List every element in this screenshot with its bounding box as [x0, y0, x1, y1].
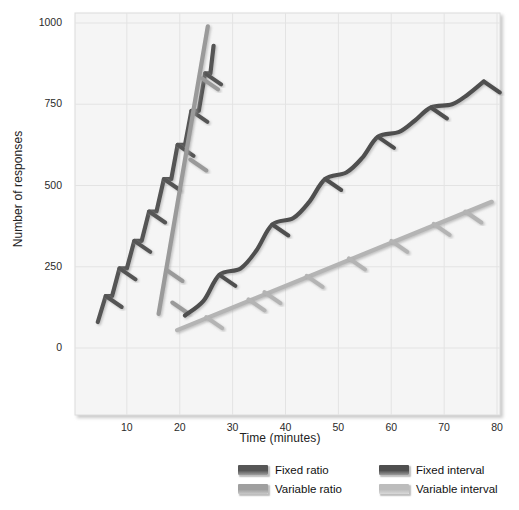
x-axis-title: Time (minutes) — [170, 431, 390, 445]
x-tick-label: 70 — [429, 421, 459, 433]
x-tick-label: 40 — [271, 421, 301, 433]
legend-swatch — [238, 465, 268, 475]
chart-container: Number of responses Time (minutes) 10007… — [0, 0, 519, 510]
x-tick-label: 80 — [482, 421, 512, 433]
legend-label: Variable ratio — [275, 483, 342, 495]
x-tick-label: 20 — [165, 421, 195, 433]
chart-legend: Fixed ratioFixed intervalVariable ratioV… — [238, 460, 510, 498]
y-tick-label: 250 — [20, 260, 62, 272]
legend-label: Variable interval — [416, 483, 498, 495]
y-tick-label: 0 — [20, 341, 62, 353]
legend-swatch — [238, 484, 268, 494]
plot-background — [75, 13, 500, 415]
legend-label: Fixed interval — [416, 464, 484, 476]
legend-swatch — [379, 465, 409, 475]
legend-item[interactable]: Variable interval — [379, 479, 510, 498]
x-tick-label: 30 — [218, 421, 248, 433]
y-tick-label: 750 — [20, 97, 62, 109]
y-tick-label: 500 — [20, 179, 62, 191]
legend-item[interactable]: Variable ratio — [238, 479, 369, 498]
x-tick-label: 50 — [323, 421, 353, 433]
legend-item[interactable]: Fixed ratio — [238, 460, 369, 479]
y-tick-label: 1000 — [20, 16, 62, 28]
x-tick-label: 60 — [376, 421, 406, 433]
legend-item[interactable]: Fixed interval — [379, 460, 510, 479]
legend-label: Fixed ratio — [275, 464, 329, 476]
x-tick-label: 10 — [112, 421, 142, 433]
legend-swatch — [379, 484, 409, 494]
